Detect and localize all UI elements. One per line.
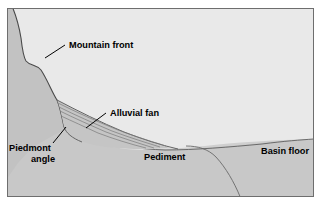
label-mountain-front: Mountain front	[69, 40, 133, 50]
label-alluvial-fan: Alluvial fan	[110, 108, 159, 118]
label-basin-floor: Basin floor	[261, 146, 309, 156]
cross-section-diagram: Mountain front Alluvial fan Piedmont ang…	[0, 0, 330, 209]
label-pediment: Pediment	[144, 152, 185, 162]
figure-canvas: Mountain front Alluvial fan Piedmont ang…	[0, 0, 330, 209]
label-piedmont-angle-line2: angle	[31, 154, 55, 164]
label-piedmont-angle-line1: Piedmont	[9, 143, 51, 153]
